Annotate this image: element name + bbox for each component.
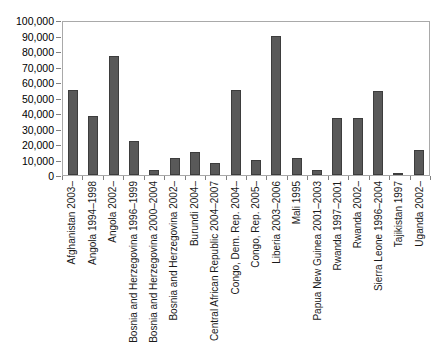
bars-layer bbox=[63, 22, 429, 175]
x-axis-tick-label: Central African Republic 2004–2007 bbox=[210, 181, 220, 341]
bar bbox=[149, 170, 159, 175]
x-axis-tick-label: Rwanda 1997–2001 bbox=[333, 181, 343, 271]
bar bbox=[271, 36, 281, 176]
bar-chart: 100,00090,00080,00070,00060,00050,00040,… bbox=[0, 0, 436, 363]
bar bbox=[88, 116, 98, 175]
x-axis-tick-label: Congo, Rep. 2005– bbox=[251, 181, 261, 268]
x-axis-tick-label: Angola 2002– bbox=[108, 181, 118, 243]
y-axis-tick-mark bbox=[56, 114, 61, 115]
y-axis: 100,00090,00080,00070,00060,00050,00040,… bbox=[0, 14, 58, 184]
y-axis-tick-mark bbox=[56, 130, 61, 131]
x-axis-tick-mark bbox=[246, 176, 247, 180]
bar bbox=[353, 118, 363, 175]
bar bbox=[292, 158, 302, 175]
y-axis-tick-mark bbox=[56, 21, 61, 22]
x-axis-tick-mark bbox=[144, 176, 145, 180]
x-axis-tick-label: Bosnia and Herzegovina 2002– bbox=[169, 181, 179, 321]
bar-slot bbox=[307, 22, 327, 175]
x-axis-tick-label: Afghanistan 2003– bbox=[67, 181, 77, 264]
x-axis-tick-label: Papua New Guinea 2001–2003 bbox=[313, 181, 323, 321]
y-axis-tick-label: 70,000 bbox=[22, 63, 54, 73]
bar bbox=[251, 160, 261, 176]
bar bbox=[312, 170, 322, 175]
y-axis-tick-mark bbox=[56, 37, 61, 38]
x-axis-tick-label: Bosnia and Herzegovina 1996–1999 bbox=[129, 181, 139, 343]
x-axis-tick-mark bbox=[307, 176, 308, 180]
x-axis-tick-label: Mali 1995 bbox=[292, 181, 302, 224]
x-axis-tick-mark bbox=[389, 176, 390, 180]
bar bbox=[332, 118, 342, 175]
bar bbox=[210, 163, 220, 175]
x-axis-tick-label: Rwanda 2002– bbox=[353, 181, 363, 248]
bar bbox=[414, 150, 424, 175]
x-axis-tick-mark bbox=[287, 176, 288, 180]
y-axis-tick-mark bbox=[56, 52, 61, 53]
x-axis-tick-label: Uganda 2002– bbox=[415, 181, 425, 247]
bar-slot bbox=[327, 22, 347, 175]
bar-slot bbox=[124, 22, 144, 175]
x-axis-tick-mark bbox=[348, 176, 349, 180]
bar-slot bbox=[63, 22, 83, 175]
y-axis-tick-label: 90,000 bbox=[22, 32, 54, 42]
y-axis-tick-mark bbox=[56, 145, 61, 146]
y-axis-tick-label: 50,000 bbox=[22, 94, 54, 104]
y-axis-tick-label: 40,000 bbox=[22, 109, 54, 119]
bar-slot bbox=[226, 22, 246, 175]
x-axis-tick-label: Tajikistan 1997 bbox=[394, 181, 404, 247]
y-axis-tick-label: 100,000 bbox=[16, 16, 54, 26]
bar-slot bbox=[287, 22, 307, 175]
x-axis-tick-label: Angola 1994–1998 bbox=[88, 181, 98, 265]
bar bbox=[231, 90, 241, 175]
x-axis-tick-mark bbox=[123, 176, 124, 180]
y-axis-tick-mark bbox=[56, 176, 61, 177]
bar-slot bbox=[165, 22, 185, 175]
y-axis-tick-label: 20,000 bbox=[22, 140, 54, 150]
bar-slot bbox=[205, 22, 225, 175]
y-axis-tick-mark bbox=[56, 83, 61, 84]
bar bbox=[170, 158, 180, 175]
x-axis-tick-mark bbox=[226, 176, 227, 180]
x-axis-tick-mark bbox=[328, 176, 329, 180]
bar-slot bbox=[144, 22, 164, 175]
y-axis-tick-label: 30,000 bbox=[22, 125, 54, 135]
x-axis-ticks bbox=[62, 176, 430, 180]
y-axis-tick-label: 10,000 bbox=[22, 156, 54, 166]
bar bbox=[393, 173, 403, 175]
bar bbox=[373, 91, 383, 175]
x-axis-tick-label: Bosnia and Herzegovina 2000–2004 bbox=[149, 181, 159, 343]
bar-slot bbox=[409, 22, 429, 175]
bar-slot bbox=[83, 22, 103, 175]
y-axis-tick-label: 80,000 bbox=[22, 47, 54, 57]
x-axis-tick-label: Sierra Leone 1996–2004 bbox=[374, 181, 384, 291]
x-axis-tick-label: Burundi 2004– bbox=[190, 181, 200, 246]
bar-slot bbox=[266, 22, 286, 175]
y-axis-tick-label: 60,000 bbox=[22, 78, 54, 88]
x-axis-tick-label: Liberia 2003–2006 bbox=[272, 181, 282, 264]
x-axis-tick-mark bbox=[164, 176, 165, 180]
bar bbox=[190, 152, 200, 175]
y-axis-tick-mark bbox=[56, 161, 61, 162]
bar-slot bbox=[185, 22, 205, 175]
x-axis-tick-mark bbox=[82, 176, 83, 180]
x-axis-tick-mark bbox=[62, 176, 63, 180]
bar bbox=[68, 90, 78, 175]
bar-slot bbox=[388, 22, 408, 175]
bar-slot bbox=[348, 22, 368, 175]
bar-slot bbox=[246, 22, 266, 175]
x-axis-tick-label: Congo, Dem. Rep. 2004– bbox=[231, 181, 241, 294]
plot-area bbox=[62, 21, 430, 176]
x-axis: Afghanistan 2003–Angola 1994–1998Angola … bbox=[62, 181, 430, 361]
y-axis-tick-label: 0 bbox=[48, 171, 54, 181]
x-axis-tick-mark bbox=[103, 176, 104, 180]
y-axis-tick-mark bbox=[56, 68, 61, 69]
x-axis-tick-mark bbox=[410, 176, 411, 180]
x-axis-tick-mark bbox=[430, 176, 431, 180]
x-axis-tick-mark bbox=[266, 176, 267, 180]
bar-slot bbox=[104, 22, 124, 175]
bar bbox=[129, 141, 139, 175]
bar-slot bbox=[368, 22, 388, 175]
y-axis-tick-mark bbox=[56, 99, 61, 100]
x-axis-tick-mark bbox=[369, 176, 370, 180]
bar bbox=[109, 56, 119, 175]
x-axis-tick-mark bbox=[185, 176, 186, 180]
